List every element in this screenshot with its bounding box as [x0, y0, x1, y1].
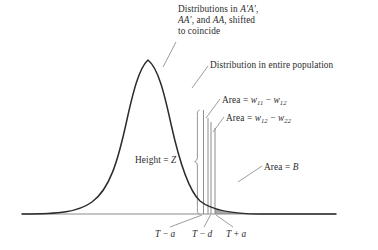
vertical-marker-lines	[204, 110, 216, 214]
label-genotypes-aaprime: AA′	[178, 15, 192, 25]
label-genotypes-and: , and	[192, 15, 213, 25]
axis-op-2: −	[197, 229, 207, 239]
axis-label-t-plus-a: T + a	[226, 229, 246, 240]
label-area-prefix-2: Area =	[226, 113, 255, 123]
label-genotypes-comma: ,	[256, 4, 258, 14]
distribution-figure: Distributions in A′A′, AA′, and AA, shif…	[0, 0, 378, 250]
label-height-var: Z	[171, 155, 176, 165]
leader-genotypes	[163, 42, 176, 67]
label-genotypes-shifted: , shifted	[224, 15, 255, 25]
label-area-b-prefix: Area =	[264, 162, 293, 172]
leader-population	[192, 66, 208, 88]
axis-op-1: −	[160, 229, 170, 239]
label-distribution-entire-population: Distribution in entire population	[210, 60, 333, 71]
axis-label-t-minus-a: T − a	[155, 229, 175, 240]
axis-sym-2: d	[207, 229, 212, 239]
label-genotypes-aa: AA	[213, 15, 225, 25]
leader-area-b	[238, 166, 262, 182]
label-population-text: Distribution in entire population	[210, 60, 333, 70]
label-area-b-var: B	[293, 162, 299, 172]
leader-t-minus-a	[170, 215, 202, 227]
leader-w11-w12	[206, 99, 220, 118]
label-genotypes-aprimeaprime: A′A′	[240, 4, 256, 14]
label-distributions-genotypes: Distributions in A′A′, AA′, and AA, shif…	[178, 4, 258, 38]
axis-label-t-minus-d: T − d	[192, 229, 212, 240]
label-w-sub-1b: 12	[280, 99, 287, 106]
label-height-prefix: Height =	[135, 155, 171, 165]
label-w-sub-2a: 12	[261, 117, 268, 124]
label-height-z: Height = Z	[135, 155, 176, 166]
label-area-b: Area = B	[264, 162, 298, 173]
leader-w12-w22	[213, 117, 224, 132]
label-genotypes-line3: to coincide	[178, 26, 220, 36]
label-area-w12-minus-w22: Area = w12 − w22	[226, 113, 291, 126]
axis-op-3: +	[231, 229, 241, 239]
label-minus-2: −	[268, 113, 278, 123]
leader-t-minus-d	[204, 215, 211, 227]
axis-sym-3: a	[241, 229, 246, 239]
label-genotypes-line1-text: Distributions in	[178, 4, 240, 14]
normal-distribution-curve	[22, 60, 336, 214]
label-area-w11-minus-w12: Area = w11 − w12	[222, 95, 287, 108]
axis-sym-1: a	[170, 229, 175, 239]
label-w-sub-2b: 22	[284, 117, 291, 124]
leader-t-plus-a	[216, 215, 233, 227]
label-area-prefix-1: Area =	[222, 95, 251, 105]
label-minus-1: −	[263, 95, 273, 105]
